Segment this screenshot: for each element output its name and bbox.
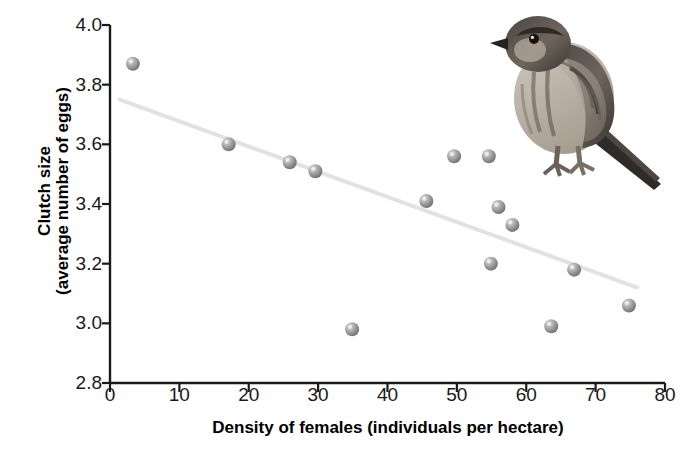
data-point (126, 57, 140, 71)
data-point (567, 263, 581, 277)
data-point (484, 257, 498, 271)
scatter-chart-figure: Clutch size (average number of eggs) 2.8… (0, 0, 680, 453)
data-point (308, 164, 322, 178)
data-point (419, 194, 433, 208)
data-point (505, 218, 519, 232)
data-point (283, 155, 297, 169)
data-point (447, 149, 461, 163)
data-point (492, 200, 506, 214)
data-point (222, 137, 236, 151)
data-point (544, 319, 558, 333)
data-point (345, 322, 359, 336)
sparrow-bird-illustration (486, 6, 671, 196)
data-point (622, 298, 636, 312)
